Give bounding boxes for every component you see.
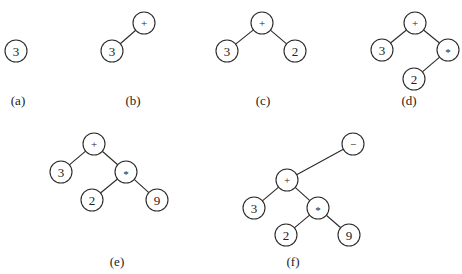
node-label: +	[259, 17, 265, 29]
operand-node: 2	[275, 224, 297, 246]
operator-node-plus: +	[404, 12, 426, 34]
operand-node: 2	[284, 40, 306, 62]
tree-edge	[134, 179, 149, 192]
node-label: 3	[13, 44, 20, 59]
operand-node: 9	[338, 224, 360, 246]
operand-node: 9	[146, 189, 168, 211]
operator-node-plus: +	[133, 12, 155, 34]
node-label: +	[91, 138, 97, 150]
node-label: 9	[346, 228, 353, 243]
panel-caption-c: (c)	[256, 93, 270, 108]
tree-edge	[120, 30, 135, 44]
tree-edge	[69, 151, 85, 165]
tree-edge	[422, 57, 439, 72]
node-label: 3	[58, 165, 65, 180]
operator-node-times: *	[307, 197, 329, 219]
node-label: +	[284, 174, 290, 186]
node-label: 2	[292, 44, 299, 59]
node-label: *	[315, 204, 321, 216]
tree-panel-b: +3(b)	[101, 12, 155, 108]
node-label: +	[141, 17, 147, 29]
tree-edge	[262, 187, 278, 201]
tree-panel-a: 3(a)	[5, 40, 27, 108]
tree-edge	[391, 30, 407, 43]
node-label: 3	[251, 201, 258, 216]
tree-edge	[102, 151, 117, 165]
panel-caption-e: (e)	[110, 254, 124, 269]
tree-edge	[424, 30, 440, 43]
tree-panel-d: +3*2(d)	[371, 12, 459, 108]
tree-edge	[295, 187, 310, 200]
node-label: 3	[379, 43, 386, 58]
operator-node-times: *	[115, 161, 137, 183]
node-label: 3	[224, 44, 231, 59]
tree-edge	[270, 30, 286, 44]
tree-panel-e: +3*29(e)	[50, 133, 168, 269]
operand-node: 3	[243, 197, 265, 219]
tree-edge	[100, 179, 117, 193]
node-label: *	[445, 46, 451, 58]
operator-node-minus: −	[342, 133, 364, 155]
panel-caption-f: (f)	[287, 254, 300, 269]
panel-caption-a: (a)	[11, 93, 25, 108]
tree-edge	[326, 215, 340, 228]
tree-panel-c: +32(c)	[216, 12, 306, 108]
operand-node: 2	[403, 68, 425, 90]
node-label: 3	[109, 44, 116, 59]
operand-node: 3	[216, 40, 238, 62]
operand-node: 3	[5, 40, 27, 62]
tree-panel-f: −+3*29(f)	[243, 133, 364, 269]
node-label: *	[123, 168, 129, 180]
panel-caption-b: (b)	[125, 93, 140, 108]
panels-root: 3(a)+3(b)+32(c)+3*2(d)+3*29(e)−+3*29(f)	[5, 12, 459, 269]
node-label: 2	[411, 72, 418, 87]
operand-node: 2	[81, 189, 103, 211]
operand-node: 3	[371, 39, 393, 61]
operand-node: 3	[50, 161, 72, 183]
operand-node: 3	[101, 40, 123, 62]
operator-node-plus: +	[276, 169, 298, 191]
expression-tree-figure: 3(a)+3(b)+32(c)+3*2(d)+3*29(e)−+3*29(f)	[0, 0, 462, 274]
operator-node-plus: +	[251, 12, 273, 34]
node-label: +	[412, 17, 418, 29]
panel-caption-d: (d)	[401, 93, 416, 108]
operator-node-times: *	[437, 39, 459, 61]
operator-node-plus: +	[83, 133, 105, 155]
node-label: 2	[89, 193, 96, 208]
tree-edge	[297, 149, 344, 174]
tree-edge	[294, 215, 309, 228]
node-label: −	[350, 138, 356, 150]
node-label: 9	[154, 193, 161, 208]
node-label: 2	[283, 228, 290, 243]
tree-edge	[236, 30, 254, 44]
